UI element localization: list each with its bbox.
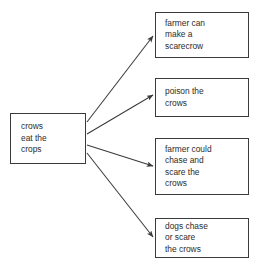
effect-node-label: farmer could chase and scare the crows — [165, 144, 212, 190]
effect-node-label: dogs chase or scare the crows — [165, 221, 208, 255]
arrow-to-effect-4 — [87, 153, 153, 237]
cause-and-effect-diagram: Cause and Effect crows eat the crops far… — [0, 0, 259, 270]
effect-node-poison-crows: poison the crows — [155, 78, 249, 117]
effect-node-farmer-chase-scare: farmer could chase and scare the crows — [155, 138, 249, 195]
effect-node-label: farmer can make a scarecrow — [165, 18, 205, 52]
effect-node-label: poison the crows — [165, 86, 204, 109]
effect-node-make-scarecrow: farmer can make a scarecrow — [155, 12, 249, 58]
effect-node-dogs-chase-scare: dogs chase or scare the crows — [155, 218, 249, 258]
arrow-to-effect-2 — [87, 95, 153, 134]
cause-node-label: crows eat the crops — [20, 121, 47, 155]
cause-node-crows-eat-crops: crows eat the crops — [10, 113, 86, 164]
arrow-to-effect-1 — [87, 36, 153, 122]
arrow-to-effect-3 — [87, 145, 153, 166]
